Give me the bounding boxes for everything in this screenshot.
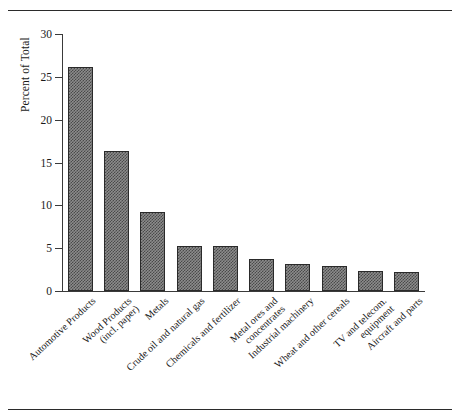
- y-tick-mark: [55, 291, 62, 292]
- bar: [213, 246, 238, 291]
- top-horizontal-rule: [8, 10, 452, 11]
- bar: [394, 272, 419, 291]
- bar: [249, 259, 274, 291]
- bar: [140, 212, 165, 291]
- y-tick-label: 10: [41, 199, 53, 211]
- y-tick-mark: [55, 34, 62, 35]
- y-tick-mark: [55, 120, 62, 121]
- x-tick-label: Automotive Products: [27, 295, 98, 363]
- y-tick-label: 20: [41, 114, 53, 126]
- y-tick-label: 5: [46, 242, 52, 254]
- bar: [68, 67, 93, 291]
- bar: [322, 266, 347, 291]
- figure-container: Percent of Total 051015202530 Automotive…: [0, 0, 460, 419]
- y-tick-label: 0: [46, 285, 52, 297]
- y-tick-mark: [55, 77, 62, 78]
- y-tick-label: 25: [41, 71, 53, 83]
- y-tick-label: 30: [41, 28, 53, 40]
- x-tick-label: Metals: [142, 295, 170, 322]
- plot-area: 051015202530: [62, 34, 425, 291]
- y-tick-mark: [55, 248, 62, 249]
- bar: [177, 246, 202, 291]
- y-axis-title: Percent of Total: [19, 0, 31, 112]
- bar: [285, 264, 310, 291]
- x-axis-tick-labels: Automotive ProductsWood Products(incl. p…: [62, 291, 460, 411]
- bar-series: [62, 34, 425, 291]
- bar: [104, 151, 129, 291]
- y-tick-mark: [55, 205, 62, 206]
- y-tick-mark: [55, 163, 62, 164]
- bar: [358, 271, 383, 291]
- x-tick-label-line2: (incl. paper): [89, 303, 142, 354]
- y-tick-label: 15: [41, 157, 53, 169]
